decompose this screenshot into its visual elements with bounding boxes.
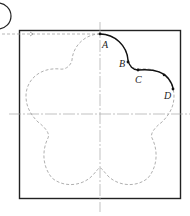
- point-c: [137, 69, 140, 72]
- point-b: [127, 61, 130, 64]
- point-a: [99, 33, 102, 36]
- reference-circle: [0, 3, 11, 29]
- leader-arrow-icon: [30, 32, 33, 36]
- drawing-canvas: A B C D: [0, 0, 190, 216]
- label-b: B: [119, 58, 125, 69]
- point-d: [172, 88, 175, 91]
- label-a: A: [101, 39, 109, 50]
- label-d: D: [163, 90, 172, 101]
- point-mid: [163, 74, 165, 76]
- label-c: C: [135, 74, 142, 85]
